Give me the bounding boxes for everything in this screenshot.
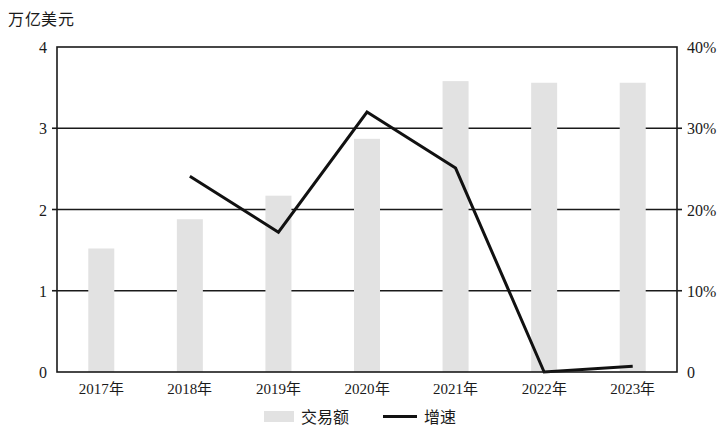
y-axis-right-tick-label: 30% <box>687 120 716 137</box>
x-axis-tick-label: 2021年 <box>433 381 478 397</box>
legend-label-line: 增速 <box>424 404 456 428</box>
x-axis-category-labels: 2017年2018年2019年2020年2021年2022年2023年 <box>79 381 655 397</box>
x-axis-tick-label: 2023年 <box>610 381 655 397</box>
bar <box>177 219 203 372</box>
x-axis-tick-label: 2020年 <box>345 381 390 397</box>
legend-item-line: 增速 <box>383 404 456 428</box>
bar <box>443 81 469 372</box>
chart-container: 万亿美元 01234 010%20%30%40% 2017年2018年2019年… <box>0 0 719 435</box>
y-axis-right-tick-label: 20% <box>687 202 716 219</box>
chart-plot-area: 01234 010%20%30%40% 2017年2018年2019年2020年… <box>0 0 719 435</box>
legend-item-bar: 交易额 <box>264 404 349 428</box>
bars-group <box>88 81 645 372</box>
legend-label-bar: 交易额 <box>301 404 349 428</box>
y-axis-left-tick-label: 0 <box>39 364 47 381</box>
y-axis-left-tick-label: 1 <box>39 283 47 300</box>
line-series <box>190 112 633 372</box>
y-axis-left-tick-label: 4 <box>39 39 47 56</box>
y-axis-right-ticks: 010%20%30%40% <box>677 39 716 381</box>
y-axis-right-tick-label: 40% <box>687 39 716 56</box>
bar <box>88 249 114 373</box>
bar <box>620 83 646 372</box>
legend-line-swatch-icon <box>383 415 417 418</box>
line-series-group <box>190 112 633 372</box>
y-axis-left-ticks: 01234 <box>39 39 57 381</box>
x-axis-tick-label: 2017年 <box>79 381 124 397</box>
bar <box>354 139 380 372</box>
x-axis-tick-label: 2019年 <box>256 381 301 397</box>
y-axis-right-tick-label: 0 <box>687 364 695 381</box>
x-axis-tick-label: 2018年 <box>167 381 212 397</box>
y-axis-right-tick-label: 10% <box>687 283 716 300</box>
legend-bar-swatch-icon <box>264 411 294 422</box>
y-axis-left-tick-label: 2 <box>39 202 47 219</box>
x-axis-tick-label: 2022年 <box>522 381 567 397</box>
chart-legend: 交易额 增速 <box>0 404 719 428</box>
y-axis-left-tick-label: 3 <box>39 120 47 137</box>
bar <box>531 83 557 372</box>
